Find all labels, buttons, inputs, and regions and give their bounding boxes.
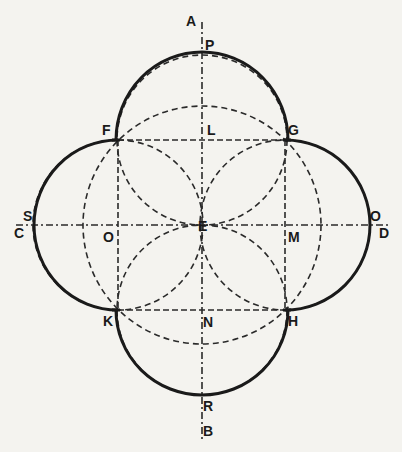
label-H: H (288, 313, 298, 329)
label-A: A (186, 13, 196, 29)
label-M: M (288, 229, 300, 245)
label-N: N (203, 314, 213, 330)
label-E: E (198, 218, 207, 234)
label-F: F (102, 122, 111, 138)
label-B: B (203, 423, 213, 439)
quatrefoil-diagram: E A P F L G S C O M O D K N H R B (0, 0, 402, 452)
label-P: P (205, 37, 214, 53)
label-C: C (14, 225, 24, 241)
label-K: K (103, 313, 113, 329)
label-S: S (23, 208, 32, 224)
label-L: L (207, 122, 216, 138)
label-R: R (203, 398, 213, 414)
label-G: G (288, 122, 299, 138)
bold-arc-top (116, 52, 288, 140)
label-O-right: O (370, 208, 381, 224)
label-O-left: O (103, 229, 114, 245)
label-D: D (379, 225, 389, 241)
